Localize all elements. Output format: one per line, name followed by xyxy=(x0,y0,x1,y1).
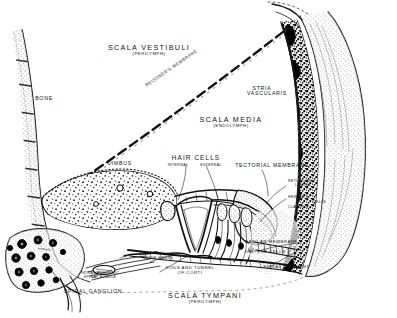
cochlea-illustration xyxy=(0,0,397,318)
limbus-structure xyxy=(40,164,184,234)
organ-of-corti-structure xyxy=(161,197,302,274)
spiral-ganglion-structure xyxy=(0,220,96,312)
lower-bone-wall xyxy=(80,276,306,294)
cochlea-diagram-figure: SCALA VESTIBULI (PERILYMPH) BONE REISSNE… xyxy=(0,0,397,318)
reissners-membrane-line xyxy=(84,28,290,180)
